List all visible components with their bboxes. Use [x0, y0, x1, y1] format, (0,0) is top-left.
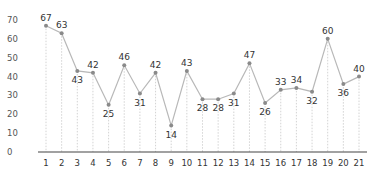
data-point — [201, 97, 205, 101]
data-point — [122, 63, 126, 67]
y-tick-label: 50 — [7, 53, 18, 63]
data-label: 32 — [306, 96, 317, 106]
x-tick-label: 19 — [322, 158, 333, 168]
data-label: 42 — [87, 60, 98, 70]
x-tick-label: 21 — [354, 158, 365, 168]
y-tick-label: 60 — [7, 34, 18, 44]
data-point — [44, 24, 48, 28]
data-point — [75, 69, 79, 73]
data-label: 40 — [353, 64, 365, 74]
data-point — [263, 101, 267, 105]
data-label: 25 — [103, 109, 114, 119]
drop-lines — [46, 26, 359, 152]
data-label: 67 — [40, 13, 51, 23]
data-point — [138, 92, 142, 96]
x-tick-label: 15 — [260, 158, 271, 168]
data-point — [326, 37, 330, 41]
data-label: 28 — [212, 103, 224, 113]
y-tick-label: 0 — [7, 147, 12, 157]
data-point — [185, 69, 189, 73]
x-tick-label: 10 — [181, 158, 192, 168]
data-label: 28 — [197, 103, 209, 113]
x-tick-label: 20 — [338, 158, 349, 168]
x-tick-label: 11 — [197, 158, 208, 168]
x-tick-label: 2 — [59, 158, 64, 168]
data-label: 47 — [244, 50, 255, 60]
x-tick-label: 18 — [307, 158, 318, 168]
data-point — [279, 88, 283, 92]
data-label: 43 — [181, 58, 192, 68]
y-tick-label: 70 — [7, 15, 18, 25]
y-tick-label: 10 — [7, 128, 18, 138]
data-point — [341, 82, 345, 86]
data-point — [107, 103, 111, 107]
data-label: 31 — [228, 98, 239, 108]
line-chart: 010203040506070 676343422546314214432828… — [0, 0, 386, 181]
data-label: 33 — [275, 77, 286, 87]
x-tick-label: 16 — [275, 158, 286, 168]
x-tick-label: 14 — [244, 158, 255, 168]
data-label: 26 — [259, 107, 271, 117]
data-label: 60 — [322, 26, 334, 36]
y-tick-label: 20 — [7, 109, 18, 119]
x-tick-label: 5 — [106, 158, 111, 168]
x-tick-label: 9 — [168, 158, 173, 168]
data-point — [216, 97, 220, 101]
x-tick-label: 17 — [291, 158, 302, 168]
data-point — [60, 31, 64, 35]
x-tick-label: 3 — [75, 158, 80, 168]
x-tick-label: 4 — [90, 158, 95, 168]
data-point — [294, 86, 298, 90]
y-tick-label: 40 — [7, 72, 18, 82]
x-axis: 123456789101112131415161718192021 — [43, 158, 364, 168]
data-label: 43 — [72, 75, 83, 85]
data-label: 14 — [165, 130, 177, 140]
y-axis: 010203040506070 — [7, 15, 18, 157]
x-tick-label: 7 — [137, 158, 142, 168]
data-label: 46 — [119, 52, 131, 62]
data-point — [232, 92, 236, 96]
y-tick-label: 30 — [7, 90, 18, 100]
x-tick-label: 6 — [122, 158, 127, 168]
data-point — [169, 124, 173, 128]
x-tick-label: 12 — [213, 158, 224, 168]
data-point — [357, 75, 361, 79]
data-label: 31 — [134, 98, 145, 108]
data-point — [310, 90, 314, 94]
data-point — [247, 61, 251, 65]
data-point — [91, 71, 95, 75]
x-tick-label: 8 — [153, 158, 158, 168]
data-label: 34 — [291, 75, 303, 85]
data-label: 63 — [56, 20, 67, 30]
data-point — [154, 71, 158, 75]
data-label: 36 — [338, 88, 350, 98]
x-tick-label: 13 — [228, 158, 239, 168]
data-label: 42 — [150, 60, 161, 70]
x-tick-label: 1 — [43, 158, 48, 168]
